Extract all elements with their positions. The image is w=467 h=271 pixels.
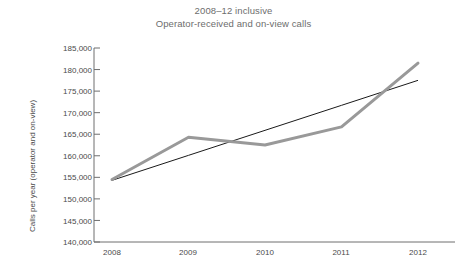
data-line-series — [112, 63, 418, 179]
y-axis-ticks — [94, 48, 100, 242]
chart-container: 2008–12 inclusive Operator-received and … — [0, 0, 467, 271]
plot-area — [0, 0, 467, 271]
trend-line-series — [112, 80, 418, 180]
